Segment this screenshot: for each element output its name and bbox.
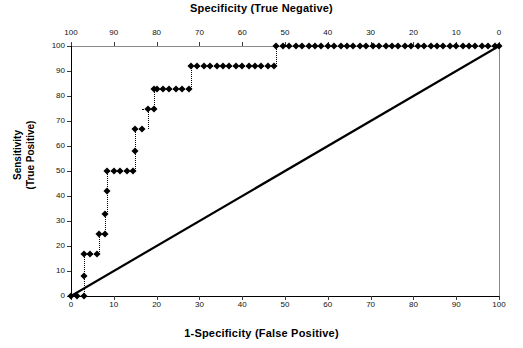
x-tick-label: 30 — [184, 300, 214, 309]
y-tick-mark — [67, 146, 71, 147]
top-tick-label: 80 — [142, 28, 172, 37]
y-tick-mark — [67, 246, 71, 247]
y-tick-mark — [67, 221, 71, 222]
x-tick-label: 90 — [441, 300, 471, 309]
y-tick-label: 30 — [41, 216, 65, 225]
x-tick-label: 70 — [356, 300, 386, 309]
top-tick-label: 100 — [56, 28, 86, 37]
roc-chart-figure: Specificity (True Negative) Sensitivity … — [0, 0, 523, 348]
top-tick-label: 0 — [484, 28, 514, 37]
y-tick-label: 10 — [41, 266, 65, 275]
y-axis-title-line1: Sensitivity — [11, 95, 24, 215]
top-tick-label: 40 — [313, 28, 343, 37]
top-tick-label: 10 — [441, 28, 471, 37]
x-tick-label: 20 — [142, 300, 172, 309]
y-tick-label: 90 — [41, 66, 65, 75]
top-axis-title: Specificity (True Negative) — [0, 2, 523, 14]
top-tick-label: 70 — [184, 28, 214, 37]
top-tick-label: 60 — [227, 28, 257, 37]
top-tick-label: 90 — [99, 28, 129, 37]
top-tick-label: 50 — [270, 28, 300, 37]
y-tick-label: 20 — [41, 241, 65, 250]
x-axis-title: 1-Specificity (False Positive) — [0, 327, 523, 339]
top-tick-mark — [242, 42, 243, 46]
x-tick-label: 80 — [398, 300, 428, 309]
x-tick-label: 40 — [227, 300, 257, 309]
y-tick-label: 100 — [41, 41, 65, 50]
y-tick-mark — [67, 46, 71, 47]
x-tick-label: 60 — [313, 300, 343, 309]
series-connector — [276, 46, 277, 66]
y-tick-mark — [67, 271, 71, 272]
y-tick-label: 70 — [41, 116, 65, 125]
plot-area: 0102030405060708090100 10090807060504030… — [71, 46, 500, 297]
y-tick-label: 0 — [41, 291, 65, 300]
x-tick-label: 0 — [56, 300, 86, 309]
top-tick-mark — [199, 42, 200, 46]
x-tick-label: 10 — [99, 300, 129, 309]
y-axis-title-line2: (True Positive) — [24, 95, 37, 215]
y-tick-mark — [67, 196, 71, 197]
y-tick-label: 60 — [41, 141, 65, 150]
top-tick-mark — [157, 42, 158, 46]
series-connector — [107, 191, 108, 214]
y-tick-mark — [67, 121, 71, 122]
y-tick-label: 40 — [41, 191, 65, 200]
top-tick-label: 30 — [356, 28, 386, 37]
y-tick-mark — [67, 171, 71, 172]
top-tick-label: 20 — [398, 28, 428, 37]
x-tick-label: 100 — [484, 300, 514, 309]
y-tick-mark — [67, 71, 71, 72]
top-tick-mark — [114, 42, 115, 46]
y-tick-label: 80 — [41, 91, 65, 100]
top-tick-mark — [71, 42, 72, 46]
y-axis-title: Sensitivity (True Positive) — [11, 95, 37, 215]
y-tick-label: 50 — [41, 166, 65, 175]
x-tick-label: 50 — [270, 300, 300, 309]
y-tick-mark — [67, 96, 71, 97]
